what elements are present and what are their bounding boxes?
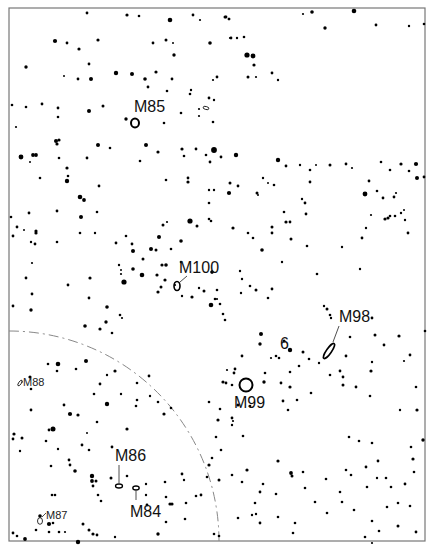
star	[12, 432, 15, 435]
star	[255, 76, 257, 78]
label-m87: M87	[46, 509, 67, 521]
star	[84, 359, 88, 363]
star	[91, 532, 94, 535]
star	[255, 289, 258, 292]
star	[242, 435, 245, 438]
star	[216, 418, 219, 421]
star	[16, 535, 19, 538]
star	[245, 468, 248, 471]
star	[144, 143, 148, 147]
star	[136, 399, 139, 402]
star	[262, 483, 265, 486]
star	[76, 540, 80, 544]
star	[256, 192, 259, 195]
star	[98, 185, 101, 188]
star	[30, 409, 33, 412]
star	[58, 531, 61, 534]
star	[163, 122, 166, 125]
star	[225, 382, 228, 385]
star	[121, 279, 126, 284]
star	[252, 63, 255, 66]
star	[352, 9, 357, 14]
star	[52, 522, 55, 525]
star	[68, 459, 71, 462]
star	[92, 485, 95, 488]
star	[12, 305, 15, 308]
star	[23, 537, 27, 541]
star	[345, 163, 348, 166]
star	[160, 286, 163, 289]
star	[237, 517, 240, 520]
star	[113, 369, 116, 372]
star	[11, 104, 14, 107]
star	[301, 198, 303, 200]
star	[196, 225, 199, 228]
star	[125, 427, 128, 430]
star	[375, 24, 378, 27]
star	[234, 368, 237, 371]
star	[397, 502, 400, 505]
star	[227, 191, 231, 195]
star	[25, 277, 28, 280]
star	[34, 231, 37, 234]
star	[370, 214, 372, 216]
star	[56, 210, 59, 213]
star	[88, 63, 91, 66]
star	[120, 269, 122, 271]
star	[216, 76, 219, 79]
star	[68, 412, 72, 416]
star	[34, 243, 37, 246]
star	[330, 317, 332, 319]
star	[397, 334, 400, 337]
star	[25, 106, 28, 109]
star	[171, 78, 174, 81]
star	[165, 179, 168, 182]
star	[271, 226, 274, 229]
star	[114, 71, 118, 75]
star	[415, 386, 418, 389]
star	[96, 143, 100, 147]
star	[124, 117, 127, 120]
star	[208, 189, 210, 191]
star	[89, 77, 93, 81]
star	[249, 285, 252, 288]
star	[302, 13, 304, 15]
star	[76, 413, 79, 416]
star	[403, 360, 405, 362]
star	[287, 409, 290, 412]
star	[207, 463, 210, 466]
star	[77, 47, 80, 50]
star	[309, 169, 312, 172]
star	[118, 264, 120, 266]
star	[389, 169, 392, 172]
object-labels: M85M100M98M99M86M84M88M876	[23, 98, 370, 521]
star	[241, 278, 243, 280]
star	[106, 374, 108, 376]
star	[415, 176, 419, 180]
star	[164, 481, 167, 484]
star	[348, 436, 351, 439]
star	[57, 116, 60, 119]
star	[140, 273, 145, 278]
star	[219, 303, 222, 306]
star	[156, 532, 159, 535]
star	[216, 289, 219, 292]
label-m85: M85	[134, 98, 165, 115]
star	[339, 491, 342, 494]
star	[216, 298, 218, 300]
star	[54, 494, 57, 497]
star	[414, 162, 418, 166]
star	[180, 147, 183, 150]
star	[208, 202, 211, 205]
star	[165, 521, 168, 524]
star	[95, 480, 98, 483]
star	[88, 449, 91, 452]
star	[121, 317, 123, 319]
star	[275, 355, 278, 358]
star	[55, 142, 58, 145]
star	[240, 292, 242, 294]
star	[208, 401, 211, 404]
star	[259, 522, 262, 525]
star	[281, 261, 283, 263]
star	[397, 525, 400, 528]
